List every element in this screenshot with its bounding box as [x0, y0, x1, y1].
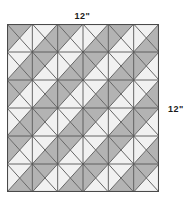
right-dimension-label: 12" — [168, 105, 184, 114]
quilt-pattern-svg — [7, 24, 159, 192]
quilt-grid — [7, 24, 159, 192]
top-dimension-label: 12" — [0, 12, 165, 21]
top-artifact-mark — [99, 0, 106, 6]
quilt-diagram: 12" 12" — [0, 0, 196, 200]
